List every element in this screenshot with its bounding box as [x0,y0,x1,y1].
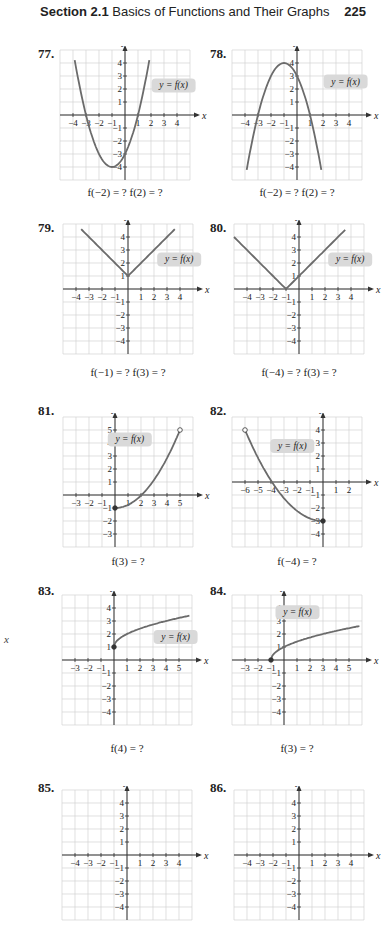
svg-text:3: 3 [121,245,126,255]
svg-text:−1: −1 [114,863,124,873]
svg-text:−2: −2 [292,485,302,495]
svg-text:−1: −1 [310,490,320,500]
function-graph: xy−3−2−112345−3−2−112345y = f(x) [59,413,211,555]
svg-text:−4: −4 [242,292,252,302]
exercise-number: 77. [38,46,54,62]
svg-text:y = f(x): y = f(x) [335,254,365,265]
exercise-number: 78. [210,46,226,62]
svg-text:−2: −2 [114,876,124,886]
svg-text:x: x [203,850,209,861]
svg-text:y = f(x): y = f(x) [164,254,194,265]
svg-text:−2: −2 [96,858,106,868]
svg-text:4: 4 [120,798,125,808]
svg-text:−4: −4 [101,707,111,717]
svg-text:1: 1 [125,663,130,673]
svg-text:−4: −4 [114,902,124,912]
svg-text:3: 3 [292,245,297,255]
svg-text:2: 2 [152,292,157,302]
svg-text:2: 2 [118,84,123,94]
page-number: 225 [344,4,366,19]
svg-text:−2: −2 [97,292,107,302]
svg-text:3: 3 [292,811,297,821]
svg-text:−4: −4 [70,858,80,868]
svg-text:−2: −2 [83,663,93,673]
svg-text:2: 2 [121,258,126,268]
svg-text:−2: −2 [253,663,263,673]
exercise-number: 84. [210,583,226,599]
svg-text:−4: −4 [242,858,252,868]
function-graph: xy−3−2−112345−4−3−2−11234y = f(x) [228,591,380,733]
svg-text:3: 3 [120,811,125,821]
svg-text:x: x [204,490,210,501]
svg-text:x: x [373,110,379,121]
svg-text:−1: −1 [101,668,111,678]
svg-text:2: 2 [139,498,144,508]
svg-text:3: 3 [321,663,326,673]
svg-text:4: 4 [178,292,183,302]
svg-text:2: 2 [308,663,313,673]
svg-text:−4: −4 [310,529,320,539]
svg-text:−2: −2 [102,516,112,526]
svg-text:4: 4 [349,858,354,868]
svg-text:4: 4 [177,858,182,868]
svg-text:−2: −2 [84,498,94,508]
svg-text:2: 2 [347,485,352,495]
svg-text:4: 4 [165,498,170,508]
svg-text:−4: −4 [115,336,125,346]
exercise-question: f(3) = ? [59,555,197,567]
svg-text:5: 5 [178,498,183,508]
exercise-question: f(−4) = ? [228,555,366,567]
svg-text:4: 4 [349,292,354,302]
svg-text:x: x [201,110,207,121]
svg-text:y: y [123,786,129,787]
svg-text:1: 1 [118,97,123,107]
svg-text:3: 3 [334,118,339,128]
svg-text:−2: −2 [268,292,278,302]
svg-text:−4: −4 [286,336,296,346]
svg-text:3: 3 [152,498,157,508]
svg-text:y: y [111,413,117,414]
svg-text:−2: −2 [266,118,276,128]
svg-text:−1: −1 [115,297,125,307]
function-graph: xy−4−3−2−11234−4−3−2−11234y = f(x) [56,46,208,188]
svg-text:3: 3 [108,451,113,461]
svg-text:4: 4 [118,58,123,68]
svg-text:3: 3 [316,438,321,448]
svg-text:2: 2 [138,663,143,673]
svg-text:2: 2 [107,629,112,639]
svg-text:1: 1 [139,292,144,302]
svg-text:−2: −2 [284,136,294,146]
svg-text:−3: −3 [255,858,265,868]
svg-text:2: 2 [120,824,125,834]
exercise-question: f(−1) = ? f(3) = ? [59,366,197,378]
exercise-number: 82. [210,403,226,419]
svg-text:y = f(x): y = f(x) [277,441,307,452]
function-graph: xy−4−3−2−11234−4−3−2−11234y = f(x) [230,220,382,362]
svg-text:2: 2 [323,292,328,302]
svg-text:−2: −2 [310,503,320,513]
svg-text:2: 2 [292,824,297,834]
exercise-number: 81. [38,403,54,419]
svg-text:2: 2 [108,464,113,474]
svg-text:y: y [293,46,299,47]
svg-text:−4: −4 [284,162,294,172]
svg-text:−3: −3 [101,694,111,704]
function-graph: xy−4−3−2−11234−4−3−2−11234 [58,786,210,925]
exercise-number: 83. [38,583,54,599]
function-graph: xy−4−3−2−11234−4−3−2−11234y = f(x) [228,46,380,188]
svg-text:4: 4 [164,663,169,673]
svg-text:1: 1 [107,642,112,652]
svg-text:y: y [295,220,301,221]
svg-text:2: 2 [323,858,328,868]
svg-text:x: x [375,284,381,295]
page-header: Section 2.1 Basics of Functions and Thei… [40,4,366,20]
exercise-question: f(−2) = ? f(2) = ? [228,186,366,198]
svg-text:−2: −2 [112,136,122,146]
svg-text:−3: −3 [286,323,296,333]
svg-text:−1: −1 [286,297,296,307]
svg-text:1: 1 [310,858,315,868]
svg-text:x: x [203,655,209,666]
svg-text:−3: −3 [70,663,80,673]
margin-stray-x-label: x [4,633,9,645]
svg-text:−1: −1 [102,503,112,513]
